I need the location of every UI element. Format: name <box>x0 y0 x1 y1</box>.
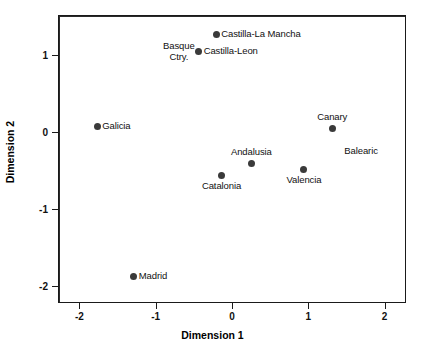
data-point <box>94 123 101 130</box>
point-label: Castilla-La Mancha <box>221 29 301 40</box>
point-label: Balearic <box>344 146 378 157</box>
point-label: Canary <box>317 112 347 123</box>
data-point <box>195 48 202 55</box>
y-tick-label: -1 <box>39 204 48 215</box>
y-axis-title-wrapper: Dimension 2 <box>2 0 18 303</box>
x-tick-mark <box>385 303 386 309</box>
x-tick-label: -1 <box>151 311 160 322</box>
point-label: Castilla-Leon <box>204 46 258 57</box>
y-tick-mark <box>52 209 58 210</box>
y-tick-mark <box>52 55 58 56</box>
y-tick-mark <box>52 132 58 133</box>
y-tick-label: -2 <box>39 281 48 292</box>
zero-line-vertical <box>59 16 60 302</box>
data-point <box>213 31 220 38</box>
point-label: Basque Ctry. <box>163 41 195 62</box>
y-tick-mark <box>52 286 58 287</box>
point-label: Andalusia <box>231 147 272 158</box>
x-tick-mark <box>308 303 309 309</box>
data-point <box>329 125 336 132</box>
x-tick-mark <box>79 303 80 309</box>
zero-line-horizontal <box>59 16 405 17</box>
y-tick-label: 0 <box>42 127 48 138</box>
data-point <box>300 166 307 173</box>
data-point <box>130 273 137 280</box>
y-axis-title: Dimension 2 <box>4 120 16 182</box>
x-tick-label: 2 <box>382 311 388 322</box>
point-label: Madrid <box>139 271 167 282</box>
scatter-plot-figure: Castilla-La ManchaCastilla-LeonBasque Ct… <box>0 0 425 361</box>
point-label: Valencia <box>287 175 322 186</box>
data-point <box>248 160 255 167</box>
plot-area: Castilla-La ManchaCastilla-LeonBasque Ct… <box>58 15 406 303</box>
x-tick-mark <box>232 303 233 309</box>
point-label: Galicia <box>102 121 130 132</box>
x-tick-label: 1 <box>306 311 312 322</box>
x-axis-title: Dimension 1 <box>0 329 425 341</box>
x-tick-mark <box>156 303 157 309</box>
point-label: Catalonia <box>202 181 241 192</box>
x-tick-label: -2 <box>75 311 84 322</box>
x-tick-label: 0 <box>229 311 235 322</box>
data-point <box>218 172 225 179</box>
y-tick-label: 1 <box>42 50 48 61</box>
